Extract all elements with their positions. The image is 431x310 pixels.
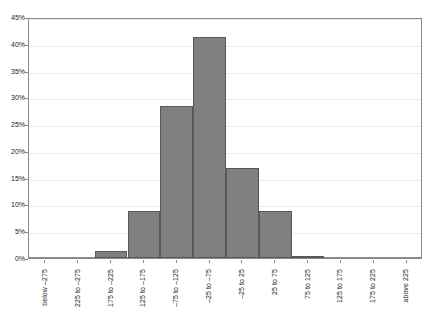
y-axis-tick-label: 25% xyxy=(1,121,25,129)
x-axis-tick-mark xyxy=(143,260,144,263)
x-axis: below –275225 to –275175 to –225125 to –… xyxy=(28,260,422,310)
x-axis-tick-mark xyxy=(274,260,275,263)
plot-area xyxy=(28,18,422,259)
x-axis-tick-mark xyxy=(373,260,374,263)
y-axis-tick-label: 15% xyxy=(1,175,25,183)
x-axis-tick-mark xyxy=(77,260,78,263)
x-axis-tick-mark xyxy=(340,260,341,263)
x-axis-tick-label: above 225 xyxy=(402,269,409,303)
y-axis-tick-label: 5% xyxy=(1,228,25,236)
y-axis-tick-label: 45% xyxy=(1,14,25,22)
y-axis: 0%5%10%15%20%25%30%35%40%45% xyxy=(0,18,25,259)
x-axis-tick-label: 175 to 225 xyxy=(369,269,376,303)
x-axis-tick-label: 125 to –175 xyxy=(139,269,146,307)
x-axis-tick-label: –25 to –75 xyxy=(205,269,212,303)
x-axis-tick-label: –75 to –125 xyxy=(172,269,179,307)
y-axis-tick-label: 30% xyxy=(1,94,25,102)
bar xyxy=(160,106,193,258)
y-axis-tick-label: 40% xyxy=(1,41,25,49)
bar xyxy=(193,37,226,258)
x-axis-tick-mark xyxy=(209,260,210,263)
x-axis-tick-label: below –275 xyxy=(41,269,48,306)
y-axis-tick-label: 0% xyxy=(1,255,25,263)
x-axis-tick-mark xyxy=(307,260,308,263)
bar xyxy=(226,168,259,258)
x-axis-tick-mark xyxy=(44,260,45,263)
y-axis-tick-label: 35% xyxy=(1,68,25,76)
x-axis-tick-label: 125 to 175 xyxy=(336,269,343,303)
y-axis-tick-label: 20% xyxy=(1,148,25,156)
bar xyxy=(128,211,161,258)
x-axis-tick-mark xyxy=(406,260,407,263)
x-axis-tick-label: 175 to –225 xyxy=(107,269,114,307)
x-axis-tick-label: 75 to 125 xyxy=(304,269,311,299)
x-axis-tick-label: 25 to 75 xyxy=(271,269,278,295)
histogram-chart: 0%5%10%15%20%25%30%35%40%45% below –2752… xyxy=(0,0,431,310)
bar xyxy=(292,256,325,258)
bar xyxy=(95,251,128,258)
bar xyxy=(259,211,292,258)
x-axis-tick-mark xyxy=(176,260,177,263)
x-axis-tick-label: 225 to –275 xyxy=(74,269,81,307)
y-axis-tick-label: 10% xyxy=(1,201,25,209)
x-axis-tick-mark xyxy=(241,260,242,263)
x-axis-tick-mark xyxy=(110,260,111,263)
gridline xyxy=(29,19,421,20)
x-axis-tick-label: –25 to 25 xyxy=(238,269,245,299)
